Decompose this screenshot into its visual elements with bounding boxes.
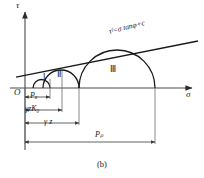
tau-axis-label: τ [16, 1, 19, 10]
dimension-label-passive-pressure: Pₚ [95, 131, 103, 139]
sigma-axis-label: σ [186, 90, 190, 99]
dimension-label-at-rest-pressure: γzK₀ [25, 105, 39, 113]
mohr-circle-III-arc [79, 50, 155, 88]
zone-label-II: Ⅱ [57, 70, 61, 79]
dimension-label-active-pressure: Pₐ [30, 92, 37, 100]
mohr-circle-I-arc [33, 80, 50, 88]
mohr-circle-II-arc [43, 70, 79, 88]
origin-label: O [14, 88, 21, 97]
diagram-canvas [0, 0, 204, 178]
zone-label-III: Ⅲ [110, 65, 116, 74]
mohr-circle-diagram: τ σ O τᶠ=σ tanφ+c Ⅰ Ⅱ Ⅲ Pₐ γzK₀ γ z Pₚ (… [0, 0, 204, 178]
figure-caption: (b) [0, 160, 204, 169]
dimension-label-overburden-stress: γ z [44, 118, 52, 126]
zone-label-I: Ⅰ [43, 73, 45, 81]
